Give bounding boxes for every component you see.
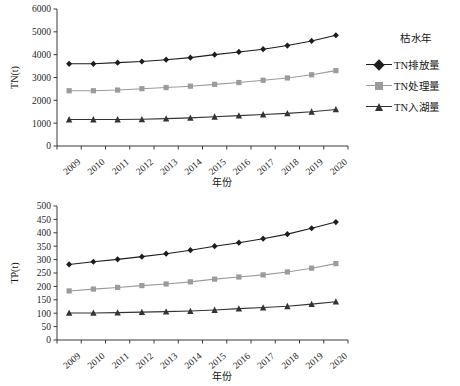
y-tick-label: 500	[37, 201, 52, 211]
data-point-square	[67, 288, 72, 293]
x-tick-label: 2015	[207, 351, 228, 371]
legend-item-tn-2[interactable]: TN入湖量	[366, 96, 460, 117]
y-tick-label: 400	[37, 228, 52, 238]
x-tick-label: 2010	[86, 157, 107, 177]
x-tick-label: 2009	[61, 351, 82, 371]
series-tn-1	[67, 68, 339, 93]
data-point-diamond	[139, 58, 145, 64]
data-point-diamond	[187, 55, 193, 61]
y-tick-label: 100	[37, 309, 52, 319]
data-point-square	[261, 78, 266, 83]
data-point-diamond	[260, 236, 266, 242]
data-point-diamond	[284, 42, 290, 48]
data-point-diamond	[66, 261, 72, 267]
data-point-square	[333, 261, 338, 266]
series-tn-0	[66, 32, 339, 67]
data-point-square	[212, 82, 217, 87]
data-point-square	[285, 269, 290, 274]
chart-panel-tp: 0501001502002503003504004505002009201020…	[0, 192, 460, 386]
y-axis-title: TN(t)	[9, 66, 21, 89]
data-point-square	[164, 85, 169, 90]
x-axis-title: 年份	[212, 370, 232, 382]
y-tick-label: 4000	[32, 50, 51, 60]
x-tick-label: 2016	[231, 157, 252, 177]
x-tick-label: 2011	[110, 157, 131, 177]
data-point-diamond	[309, 38, 315, 44]
data-point-square	[139, 86, 144, 91]
data-point-square	[139, 283, 144, 288]
chart-panel-tn: 0100020003000400050006000200920102011201…	[0, 0, 460, 192]
data-point-square	[115, 285, 120, 290]
y-tick-label: 300	[37, 255, 52, 265]
data-point-diamond	[90, 61, 96, 67]
x-tick-label: 2012	[134, 157, 155, 177]
y-tick-label: 150	[37, 295, 52, 305]
series-line	[69, 302, 336, 313]
x-tick-label: 2011	[110, 351, 131, 371]
x-tick-label: 2019	[304, 351, 325, 371]
legend-label-tn-1: TN处理量	[394, 78, 439, 93]
data-point-diamond	[66, 61, 72, 67]
x-tick-label: 2010	[86, 351, 107, 371]
diamond-marker-icon	[366, 59, 392, 71]
data-point-square	[309, 266, 314, 271]
series-tp-0	[66, 219, 339, 268]
data-point-diamond	[163, 251, 169, 257]
legend-label-tn-0: TN排放量	[394, 57, 439, 72]
x-tick-label: 2012	[134, 351, 155, 371]
data-point-square	[333, 68, 338, 73]
data-point-diamond	[309, 225, 315, 231]
data-point-diamond	[115, 256, 121, 262]
x-tick-label: 2018	[280, 351, 301, 371]
legend-item-tn-0[interactable]: TN排放量	[366, 54, 460, 75]
x-tick-label: 2018	[280, 157, 301, 177]
series-line	[69, 264, 336, 291]
y-tick-label: 3000	[32, 73, 51, 83]
legend-tn: 枯水年 TN排放量 TN处理量 TN入湖量	[366, 30, 460, 117]
x-tick-label: 2017	[255, 157, 276, 177]
y-tick-label: 50	[42, 322, 52, 332]
series-line	[69, 35, 336, 64]
legend-item-tn-1[interactable]: TN处理量	[366, 75, 460, 96]
x-tick-label: 2014	[183, 351, 204, 371]
square-marker-icon	[366, 80, 392, 92]
x-tick-label: 2015	[207, 157, 228, 177]
data-point-diamond	[284, 231, 290, 237]
y-tick-label: 450	[37, 215, 52, 225]
data-point-diamond	[187, 247, 193, 253]
y-tick-label: 2000	[32, 96, 51, 106]
y-tick-label: 0	[46, 141, 51, 151]
x-tick-label: 2016	[231, 351, 252, 371]
y-tick-label: 5000	[32, 27, 51, 37]
tp-plot-area: 0501001502002503003504004505002009201020…	[0, 192, 460, 386]
data-point-diamond	[212, 243, 218, 249]
data-point-square	[236, 274, 241, 279]
data-point-diamond	[115, 60, 121, 66]
x-tick-label: 2020	[328, 351, 349, 371]
data-point-diamond	[236, 49, 242, 55]
y-tick-label: 200	[37, 282, 52, 292]
data-point-square	[309, 72, 314, 77]
data-point-square	[164, 281, 169, 286]
data-point-square	[212, 277, 217, 282]
data-point-diamond	[212, 52, 218, 58]
series-tp-2	[66, 298, 339, 316]
y-tick-label: 350	[37, 242, 52, 252]
x-axis-title: 年份	[212, 176, 232, 188]
y-tick-label: 6000	[32, 4, 51, 14]
x-tick-label: 2013	[158, 351, 179, 371]
y-tick-label: 250	[37, 268, 52, 278]
legend-label-tn-2: TN入湖量	[394, 99, 439, 114]
data-point-diamond	[163, 57, 169, 63]
data-point-square	[261, 272, 266, 277]
data-point-square	[188, 279, 193, 284]
y-tick-label: 1000	[32, 119, 51, 129]
legend-title-tn: 枯水年	[370, 30, 460, 45]
x-tick-label: 2020	[328, 157, 349, 177]
series-line	[69, 222, 336, 264]
data-point-square	[188, 84, 193, 89]
data-point-diamond	[333, 32, 339, 38]
data-point-diamond	[236, 240, 242, 246]
series-tp-1	[67, 261, 339, 294]
data-point-square	[67, 88, 72, 93]
